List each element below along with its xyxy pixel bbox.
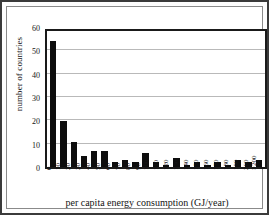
x-tick-slot: 170 bbox=[211, 170, 221, 192]
x-tick-label: 140 bbox=[183, 160, 190, 171]
x-tick-label: 200 bbox=[243, 160, 250, 171]
x-tick-slot: 190 bbox=[231, 170, 241, 192]
x-tick-slot: 0 bbox=[41, 170, 51, 192]
x-tick-slot: 200 bbox=[241, 170, 251, 192]
bar-slot bbox=[182, 31, 192, 167]
bar-slot bbox=[223, 31, 233, 167]
x-tick-label: 20 bbox=[65, 163, 72, 170]
bar-slot bbox=[254, 31, 264, 167]
bar-slot bbox=[69, 31, 79, 167]
x-tick-label: 40 bbox=[85, 163, 92, 170]
x-tick-label: 160 bbox=[203, 160, 210, 171]
bar bbox=[50, 41, 56, 168]
x-tick-label: 10 bbox=[55, 163, 62, 170]
x-tick-slot: 120 bbox=[161, 170, 171, 192]
x-tick-slot: >200 bbox=[251, 170, 261, 192]
bar-slot bbox=[79, 31, 89, 167]
x-tick-slot: 140 bbox=[181, 170, 191, 192]
y-tick-label: 10 bbox=[32, 142, 40, 150]
x-tick-slot: 150 bbox=[191, 170, 201, 192]
x-tick-label: 60 bbox=[105, 163, 112, 170]
x-tick-label: 90 bbox=[135, 163, 142, 170]
bar-slot bbox=[202, 31, 212, 167]
y-tick-label: 20 bbox=[32, 118, 40, 126]
x-tick-slot: 50 bbox=[91, 170, 101, 192]
bar-slot bbox=[48, 31, 58, 167]
x-tick-slot: 110 bbox=[151, 170, 161, 192]
bar-slot bbox=[89, 31, 99, 167]
bar-slot bbox=[161, 31, 171, 167]
bar-slot bbox=[192, 31, 202, 167]
x-tick-label: >200 bbox=[251, 156, 258, 170]
x-tick-slot: 100 bbox=[141, 170, 151, 192]
x-tick-slot: 10 bbox=[51, 170, 61, 192]
y-tick-label: 60 bbox=[32, 25, 40, 33]
x-tick-label: 70 bbox=[115, 163, 122, 170]
x-tick-slot: 80 bbox=[121, 170, 131, 192]
x-tick-slot: 130 bbox=[171, 170, 181, 192]
bar-slot bbox=[171, 31, 181, 167]
bar-slot bbox=[243, 31, 253, 167]
x-tick-slot: 180 bbox=[221, 170, 231, 192]
x-tick-slot: 30 bbox=[71, 170, 81, 192]
bar-slot bbox=[120, 31, 130, 167]
x-tick-label: 80 bbox=[125, 163, 132, 170]
x-tick-label: 190 bbox=[233, 160, 240, 171]
x-tick-label: 120 bbox=[163, 160, 170, 171]
bar bbox=[60, 121, 66, 167]
bar-slot bbox=[151, 31, 161, 167]
x-tick-label: 30 bbox=[75, 163, 82, 170]
y-axis-ticks: 0102030405060 bbox=[7, 21, 43, 177]
x-tick-slot: 60 bbox=[101, 170, 111, 192]
bar-series bbox=[47, 31, 265, 167]
figure-inner-border: number of countries 0102030405060 010203… bbox=[6, 6, 263, 209]
x-tick-label: 180 bbox=[223, 160, 230, 171]
x-tick-slot: 20 bbox=[61, 170, 71, 192]
x-tick-label: 150 bbox=[193, 160, 200, 171]
x-tick-slot: 40 bbox=[81, 170, 91, 192]
x-tick-slot: 70 bbox=[111, 170, 121, 192]
bar-slot bbox=[233, 31, 243, 167]
bar-slot bbox=[213, 31, 223, 167]
x-axis-ticks: 0102030405060708090100110120130140150160… bbox=[40, 170, 262, 192]
x-tick-label: 110 bbox=[153, 160, 160, 170]
bar-slot bbox=[58, 31, 68, 167]
x-axis-title: per capita energy consumption (GJ/year) bbox=[27, 197, 267, 208]
y-tick-label: 30 bbox=[32, 95, 40, 103]
x-tick-label: 50 bbox=[95, 163, 102, 170]
x-tick-slot: 160 bbox=[201, 170, 211, 192]
x-tick-label: 130 bbox=[173, 160, 180, 171]
figure-frame: number of countries 0102030405060 010203… bbox=[0, 0, 269, 215]
bar-slot bbox=[141, 31, 151, 167]
x-tick-label: 100 bbox=[143, 160, 150, 171]
y-tick-label: 50 bbox=[32, 48, 40, 56]
x-tick-slot: 90 bbox=[131, 170, 141, 192]
bar-slot bbox=[99, 31, 109, 167]
x-tick-label: 170 bbox=[213, 160, 220, 171]
bar-slot bbox=[110, 31, 120, 167]
bar-slot bbox=[130, 31, 140, 167]
y-tick-label: 40 bbox=[32, 72, 40, 80]
plot-area bbox=[45, 29, 267, 169]
